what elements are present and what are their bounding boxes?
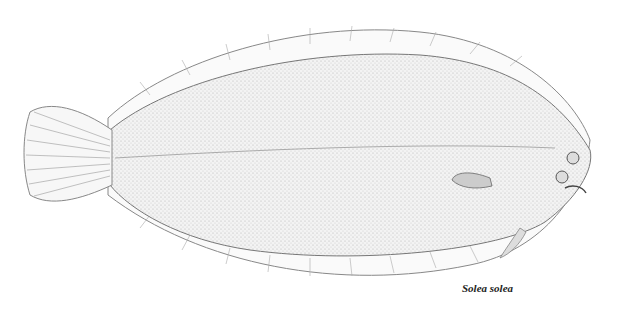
caudal-fin xyxy=(24,106,112,201)
fish-illustration xyxy=(0,0,623,311)
species-caption: Solea solea xyxy=(462,282,513,294)
